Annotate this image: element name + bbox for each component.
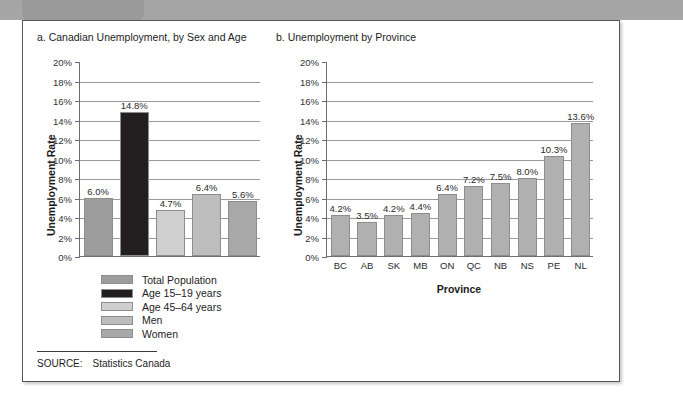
- bar-value-label: 7.2%: [463, 174, 485, 185]
- y-axis-tick-label: 16%: [53, 96, 72, 107]
- gridline: [80, 179, 260, 180]
- gridline: [80, 101, 260, 102]
- bar: [84, 198, 113, 257]
- y-axis-tick-label: 2%: [305, 232, 319, 243]
- legend-swatch: [101, 316, 133, 325]
- bar-value-label: 7.5%: [490, 171, 512, 182]
- figure-frame: a. Canadian Unemployment, by Sex and Age…: [22, 20, 620, 382]
- y-axis-tick-label: 16%: [300, 96, 319, 107]
- y-axis-tick-label: 18%: [53, 76, 72, 87]
- gridline: [327, 121, 593, 122]
- y-axis-tick: [75, 179, 80, 180]
- y-axis-tick: [322, 101, 327, 102]
- y-axis-tick: [75, 218, 80, 219]
- bar-value-label: 13.6%: [567, 111, 594, 122]
- y-axis-tick: [322, 140, 327, 141]
- panel-a-legend: Total PopulationAge 15–19 yearsAge 45–64…: [101, 273, 221, 341]
- y-axis-tick-label: 0%: [305, 252, 319, 263]
- legend-swatch: [101, 329, 133, 338]
- top-decorative-band: [0, 0, 683, 20]
- bar: [156, 210, 185, 256]
- x-axis-tick-label: QC: [467, 260, 481, 271]
- y-axis-tick-label: 12%: [53, 135, 72, 146]
- x-axis-tick-label: PE: [548, 260, 561, 271]
- legend-swatch: [101, 302, 133, 311]
- y-axis-tick: [75, 257, 80, 258]
- bar-value-label: 5.6%: [232, 189, 254, 200]
- bar: [120, 112, 149, 256]
- y-axis-tick-label: 2%: [58, 232, 72, 243]
- legend-item-label: Age 15–19 years: [142, 287, 221, 299]
- panel-b-y-axis-title: Unemployment Rate: [292, 134, 304, 236]
- legend-item-label: Age 45–64 years: [142, 301, 221, 313]
- source-text: Statistics Canada: [93, 358, 171, 369]
- legend-swatch: [101, 275, 133, 284]
- y-axis-tick-label: 14%: [53, 115, 72, 126]
- legend-item: Men: [101, 314, 221, 328]
- legend-item: Total Population: [101, 273, 221, 287]
- y-axis-tick-label: 6%: [58, 193, 72, 204]
- y-axis-tick: [322, 257, 327, 258]
- y-axis-tick: [322, 238, 327, 239]
- bar-value-label: 14.8%: [121, 100, 148, 111]
- y-axis-tick: [75, 101, 80, 102]
- bar-value-label: 6.0%: [87, 186, 109, 197]
- panel-b-unemployment-by-province: b. Unemployment by Province Unemployment…: [268, 21, 621, 381]
- source-line: SOURCE:Statistics Canada: [37, 358, 170, 369]
- x-axis-tick-label: AB: [361, 260, 374, 271]
- y-axis-tick: [322, 62, 327, 63]
- bar-value-label: 4.7%: [160, 198, 182, 209]
- legend-swatch: [101, 289, 133, 298]
- top-rounded-tab: [22, 0, 144, 22]
- y-axis-tick-label: 20%: [53, 57, 72, 68]
- bar: [544, 156, 563, 256]
- y-axis-tick: [322, 199, 327, 200]
- y-axis-tick: [75, 160, 80, 161]
- gridline: [327, 140, 593, 141]
- legend-item: Age 45–64 years: [101, 300, 221, 314]
- gridline: [80, 121, 260, 122]
- bar-value-label: 6.4%: [196, 182, 218, 193]
- panel-b-x-axis-title: Province: [326, 283, 592, 295]
- bar-value-label: 10.3%: [540, 144, 567, 155]
- source-label: SOURCE:: [37, 358, 83, 369]
- panel-b-plot-area: 0%2%4%6%8%10%12%14%16%18%20%4.2%BC3.5%AB…: [326, 62, 593, 257]
- y-axis-tick-label: 10%: [53, 154, 72, 165]
- legend-item: Age 15–19 years: [101, 287, 221, 301]
- y-axis-tick-label: 8%: [305, 174, 319, 185]
- bar: [357, 222, 376, 256]
- y-axis-tick-label: 8%: [58, 174, 72, 185]
- gridline: [80, 140, 260, 141]
- y-axis-tick: [75, 199, 80, 200]
- x-axis-tick-label: BC: [334, 260, 347, 271]
- panel-b-title: b. Unemployment by Province: [276, 31, 416, 43]
- bar: [331, 215, 350, 256]
- panel-a-plot-area: 0%2%4%6%8%10%12%14%16%18%20%6.0%14.8%4.7…: [79, 62, 260, 257]
- panel-a-title: a. Canadian Unemployment, by Sex and Age: [37, 31, 247, 43]
- legend-item-label: Men: [142, 314, 162, 326]
- gridline: [80, 160, 260, 161]
- gridline: [80, 82, 260, 83]
- y-axis-tick: [322, 218, 327, 219]
- x-axis-tick-label: MB: [413, 260, 427, 271]
- bar: [491, 183, 510, 256]
- bar: [464, 186, 483, 256]
- bar: [411, 213, 430, 256]
- y-axis-tick-label: 4%: [58, 213, 72, 224]
- y-axis-tick: [322, 121, 327, 122]
- gridline: [327, 101, 593, 102]
- x-axis-tick-label: NL: [575, 260, 587, 271]
- y-axis-tick: [322, 82, 327, 83]
- bar: [438, 194, 457, 256]
- y-axis-tick-label: 20%: [300, 57, 319, 68]
- bar: [192, 194, 221, 256]
- legend-item: Women: [101, 327, 221, 341]
- bar-value-label: 4.2%: [330, 203, 352, 214]
- panel-a-unemployment-by-sex-and-age: a. Canadian Unemployment, by Sex and Age…: [23, 21, 291, 381]
- x-axis-tick-label: NS: [521, 260, 534, 271]
- y-axis-tick: [322, 160, 327, 161]
- y-axis-tick-label: 10%: [300, 154, 319, 165]
- x-axis-tick-label: SK: [387, 260, 400, 271]
- y-axis-tick-label: 0%: [58, 252, 72, 263]
- legend-item-label: Women: [142, 328, 178, 340]
